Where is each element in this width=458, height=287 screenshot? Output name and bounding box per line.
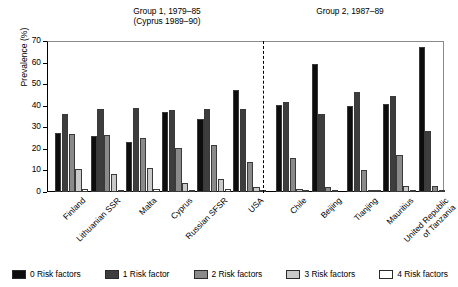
bar — [318, 114, 324, 192]
legend-label: 4 Risk factors — [397, 269, 448, 279]
bars-layer — [47, 41, 444, 192]
bar — [162, 112, 168, 192]
legend-swatch-icon — [105, 270, 119, 279]
chart-legend: 0 Risk factors1 Risk factor2 Risk factor… — [12, 267, 448, 281]
bar — [218, 179, 224, 192]
bar — [296, 189, 302, 192]
bar — [233, 90, 239, 192]
bar — [276, 105, 282, 192]
legend-item-1: 1 Risk factor — [105, 269, 170, 279]
bar-cluster — [312, 41, 345, 192]
bar — [126, 142, 132, 192]
bar — [147, 168, 153, 192]
bar — [383, 104, 389, 192]
bar-cluster — [419, 41, 452, 192]
bar — [169, 110, 175, 192]
bar — [374, 190, 380, 192]
bar — [354, 92, 360, 192]
bar — [175, 148, 181, 192]
bar — [332, 190, 338, 192]
bar — [204, 109, 210, 192]
group-divider-line — [263, 41, 264, 193]
bar — [75, 169, 81, 192]
bar — [189, 190, 195, 192]
bar — [283, 102, 289, 192]
bar — [439, 190, 445, 192]
y-tick: 60 — [0, 63, 47, 64]
y-tick: 10 — [0, 170, 47, 171]
bar — [247, 162, 253, 192]
bar — [240, 109, 246, 192]
bar — [410, 190, 416, 192]
bar — [396, 155, 402, 192]
bar-cluster — [197, 41, 230, 192]
bar — [390, 96, 396, 192]
legend-label: 3 Risk factors — [304, 269, 355, 279]
bar — [347, 106, 353, 192]
y-tick: 70 — [0, 41, 47, 42]
x-tick-label: Malta — [81, 196, 158, 273]
bar-cluster — [276, 41, 309, 192]
x-tick-label: Tianjing — [302, 196, 379, 273]
bar — [182, 183, 188, 192]
y-tick-mark — [43, 192, 47, 193]
group-2-title: Group 2, 1987–89 — [270, 6, 430, 16]
bar-cluster — [91, 41, 124, 192]
bar — [403, 186, 409, 192]
x-tick-label: Russian SFSR — [152, 196, 229, 273]
bar — [312, 64, 318, 192]
bar — [111, 174, 117, 192]
bar — [91, 136, 97, 192]
y-tick: 50 — [0, 84, 47, 85]
bar — [97, 109, 103, 192]
legend-swatch-icon — [12, 270, 26, 279]
bar — [140, 138, 146, 192]
bar — [133, 108, 139, 192]
legend-label: 2 Risk factors — [212, 269, 263, 279]
legend-swatch-icon — [194, 270, 208, 279]
bar — [325, 187, 331, 192]
bar — [211, 145, 217, 192]
bar — [153, 189, 159, 192]
bar — [419, 47, 425, 192]
bar — [197, 119, 203, 192]
legend-swatch-icon — [286, 270, 300, 279]
y-tick-label: 10 — [11, 164, 41, 174]
bar — [82, 189, 88, 192]
y-tick-label: 20 — [11, 143, 41, 153]
y-tick-label: 50 — [11, 78, 41, 88]
bar — [425, 131, 431, 192]
bar-cluster — [383, 41, 416, 192]
y-tick: 0 — [0, 192, 47, 193]
bar — [361, 170, 367, 192]
group-1-title: Group 1, 1979–85 (Cyprus 1989–90) — [92, 6, 242, 26]
bar — [55, 133, 61, 192]
bar-cluster — [162, 41, 195, 192]
y-tick: 30 — [0, 127, 47, 128]
bar — [432, 186, 438, 192]
bar — [69, 134, 75, 192]
y-tick: 20 — [0, 149, 47, 150]
y-tick-label: 0 — [11, 186, 41, 196]
y-tick-label: 40 — [11, 100, 41, 110]
bar — [225, 189, 231, 192]
legend-item-4: 4 Risk factors — [379, 269, 448, 279]
bar — [290, 158, 296, 193]
bar — [368, 190, 374, 192]
legend-item-0: 0 Risk factors — [12, 269, 81, 279]
bar-cluster — [233, 41, 266, 192]
bar — [62, 114, 68, 192]
legend-label: 0 Risk factors — [30, 269, 81, 279]
x-tick-label: USA — [188, 196, 265, 273]
y-tick-label: 60 — [11, 57, 41, 67]
bar-cluster — [347, 41, 380, 192]
y-tick-label: 70 — [11, 35, 41, 45]
legend-label: 1 Risk factor — [123, 269, 170, 279]
bar — [303, 190, 309, 192]
y-tick: 40 — [0, 106, 47, 107]
legend-item-3: 3 Risk factors — [286, 269, 355, 279]
bar — [253, 187, 259, 192]
bar — [118, 190, 124, 192]
legend-swatch-icon — [379, 270, 393, 279]
